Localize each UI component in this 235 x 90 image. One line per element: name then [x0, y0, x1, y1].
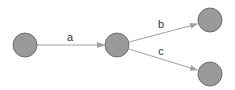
edge-label-c: c	[158, 45, 164, 57]
edge-a: a	[37, 31, 104, 45]
edge-label-a: a	[67, 31, 74, 43]
node-n2	[105, 33, 129, 57]
edge-label-b: b	[158, 18, 164, 30]
edge-c: c	[129, 45, 197, 70]
node-n4	[198, 62, 222, 86]
node-n1	[13, 33, 37, 57]
node-n3	[198, 8, 222, 32]
edge-b: b	[129, 18, 197, 42]
graph-diagram: a b c	[0, 0, 235, 90]
